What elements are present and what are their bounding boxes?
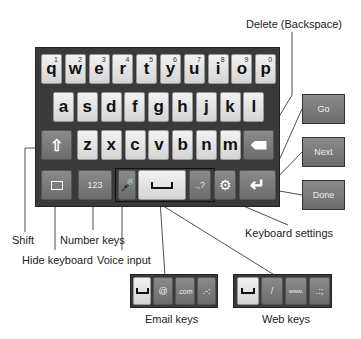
punctuation-key[interactable]: .,? (189, 170, 211, 200)
key-letter: k (225, 97, 234, 117)
key-j[interactable]: j (196, 92, 217, 122)
www-key[interactable]: www. (285, 277, 307, 305)
key-g[interactable]: g (148, 92, 169, 122)
arrow-up-icon: ⇧ (50, 136, 63, 155)
key-n[interactable]: n (196, 130, 217, 160)
space-bar-icon (136, 288, 149, 294)
enter-icon: ↵ (250, 174, 265, 196)
key-a[interactable]: a (53, 92, 74, 122)
email-space-key[interactable] (133, 277, 151, 305)
key-i[interactable]: 8i (208, 54, 229, 84)
key-l[interactable]: l (243, 92, 264, 122)
alt-number: 8 (221, 56, 225, 63)
key-r[interactable]: 4r (112, 54, 133, 84)
number-keys-key[interactable]: 123 (78, 170, 112, 200)
space-key[interactable] (138, 170, 186, 200)
key-letter: j (204, 97, 209, 117)
email-keys-label: Email keys (145, 313, 198, 325)
key-d[interactable]: d (101, 92, 122, 122)
alt-number: 3 (102, 56, 106, 63)
shift-label: Shift (12, 234, 34, 246)
web-space-key[interactable] (237, 277, 259, 305)
space-bar-icon (241, 288, 255, 294)
key-x[interactable]: x (101, 130, 122, 160)
voice-input-key[interactable]: 🎤 (118, 170, 136, 200)
hide-keyboard-key[interactable] (41, 170, 72, 200)
key-h[interactable]: h (172, 92, 193, 122)
key-m[interactable]: m (220, 130, 241, 160)
key-letter: l (252, 97, 257, 117)
key-letter: b (177, 135, 187, 155)
keyboard-settings-key[interactable]: ⚙ (214, 170, 236, 200)
key-y[interactable]: 6y (160, 54, 181, 84)
backspace-icon (251, 141, 267, 150)
voice-input-label: Voice input (97, 254, 151, 266)
gear-icon: ⚙ (219, 177, 232, 193)
number-keys-label: Number keys (60, 234, 125, 246)
delete-label: Delete (Backspace) (246, 18, 342, 30)
key-k[interactable]: k (220, 92, 241, 122)
at-key[interactable]: @ (153, 277, 173, 305)
hide-keyboard-label: Hide keyboard (22, 254, 93, 266)
key-c[interactable]: c (125, 130, 146, 160)
key-e[interactable]: 3e (89, 54, 110, 84)
keyboard-hide-icon (51, 181, 63, 190)
key-letter: v (154, 135, 163, 155)
done-button[interactable]: Done (302, 180, 345, 210)
alt-number: 7 (197, 56, 201, 63)
key-o[interactable]: 9o (231, 54, 252, 84)
web-keys-label: Web keys (262, 313, 310, 325)
key-p[interactable]: 0p (255, 54, 276, 84)
key-letter: m (223, 135, 238, 155)
key-w[interactable]: 2w (65, 54, 86, 84)
android-keyboard: 1q2w3e4r5t6y7u8i9o0p asdfghjkl ⇧ zxcvbnm… (35, 47, 280, 207)
key-letter: x (107, 135, 116, 155)
key-letter: s (83, 97, 92, 117)
enter-key[interactable]: ↵ (239, 170, 276, 200)
key-t[interactable]: 5t (136, 54, 157, 84)
key-letter: c (130, 135, 139, 155)
alt-number: 1 (54, 56, 58, 63)
microphone-icon: 🎤 (120, 178, 135, 192)
alt-number: 0 (268, 56, 272, 63)
alt-number: 4 (125, 56, 129, 63)
next-button[interactable]: Next (302, 137, 345, 167)
key-letter: g (153, 97, 163, 117)
key-u[interactable]: 7u (184, 54, 205, 84)
alt-number: 5 (149, 56, 153, 63)
delete-key[interactable] (243, 130, 274, 160)
key-letter: z (83, 135, 92, 155)
key-letter: h (177, 97, 187, 117)
alt-number: 9 (244, 56, 248, 63)
web-keys-strip: / www. .:; (233, 274, 332, 308)
key-b[interactable]: b (172, 130, 193, 160)
alt-number: 2 (78, 56, 82, 63)
key-v[interactable]: v (148, 130, 169, 160)
email-keys-strip: @ .com .-: (130, 274, 218, 308)
slash-key[interactable]: / (261, 277, 283, 305)
key-q[interactable]: 1q (41, 54, 62, 84)
key-letter: a (59, 97, 68, 117)
key-letter: f (132, 97, 138, 117)
dotcom-key[interactable]: .com (175, 277, 195, 305)
key-letter: d (106, 97, 116, 117)
keyboard-settings-label: Keyboard settings (245, 227, 333, 239)
key-letter: n (201, 135, 211, 155)
key-s[interactable]: s (77, 92, 98, 122)
go-button[interactable]: Go (302, 94, 345, 124)
key-z[interactable]: z (77, 130, 98, 160)
space-bar-icon (151, 182, 173, 189)
shift-key[interactable]: ⇧ (41, 130, 72, 160)
email-punct-key[interactable]: .-: (197, 277, 216, 305)
alt-number: 6 (173, 56, 177, 63)
web-punct-key[interactable]: .:; (309, 277, 330, 305)
key-f[interactable]: f (124, 92, 145, 122)
